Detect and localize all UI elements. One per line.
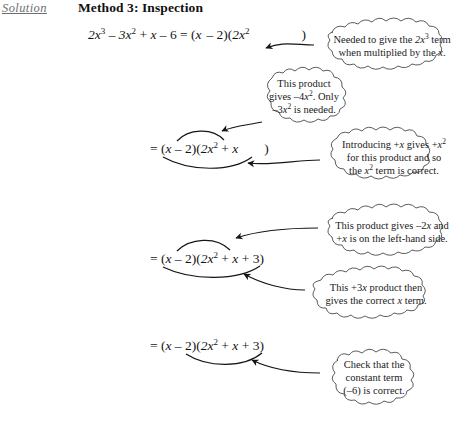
page-title: Method 3: Inspection	[78, 0, 203, 16]
callout-bubble-1-text: Needed to give the 2x3 termwhen multipli…	[328, 33, 456, 59]
callout-bubble-1: Needed to give the 2x3 termwhen multipli…	[316, 24, 468, 64]
equation-line-3: = (x – 2)(2x2 + x + 3)	[150, 251, 264, 267]
callout-bubble-6-text: Check that theconstant term(–6) is corre…	[330, 358, 418, 397]
equation-line-4: = (x – 2)(2x2 + x + 3)	[150, 338, 264, 354]
equation-line-1-text: 2x3 – 3x2 + x – 6 = (x– 2)(2x2)	[88, 27, 306, 42]
overbrace-eq3	[177, 240, 230, 251]
callout-bubble-2: This productgives –4x2. Only–3x2 is need…	[258, 68, 350, 124]
callout-bubble-4: This product gives –2x and+x is on the l…	[316, 210, 468, 250]
callout-bubble-4-text: This product gives –2x and+x is on the l…	[326, 219, 458, 245]
underbrace-eq4	[186, 353, 262, 364]
arrow-to-eq3-overbrace	[236, 228, 318, 238]
callout-bubble-3-text: Introducing +x gives +x2for this product…	[332, 138, 456, 177]
underbrace-eq3	[163, 266, 260, 277]
equation-line-2: = (x – 2)(2x2 + x)	[150, 141, 269, 157]
callout-bubble-3: Introducing +x gives +x2for this product…	[322, 129, 466, 183]
underbrace-eq2	[163, 157, 252, 168]
arrow-to-eq2-underbrace	[248, 160, 320, 164]
equation-line-2-text: = (x – 2)(2x2 + x)	[150, 141, 269, 156]
equation-line-1: 2x3 – 3x2 + x – 6 = (x– 2)(2x2)	[88, 27, 306, 43]
arrow-to-eq3-underbrace	[244, 274, 305, 290]
arrow-to-eq4-underbrace	[252, 360, 320, 373]
equation-line-4-text: = (x – 2)(2x2 + x + 3)	[150, 338, 264, 353]
arrow-to-eq1-blank	[266, 44, 314, 48]
callout-bubble-5: This +3x product thengives the correct x…	[306, 272, 446, 312]
arrow-to-bubble2	[222, 122, 262, 131]
solution-label: Solution	[2, 1, 47, 16]
callout-bubble-5-text: This +3x product thengives the correct x…	[314, 281, 438, 307]
callout-bubble-2-text: This productgives –4x2. Only–3x2 is need…	[266, 77, 342, 116]
equation-line-3-text: = (x – 2)(2x2 + x + 3)	[150, 251, 264, 266]
callout-bubble-6: Check that theconstant term(–6) is corre…	[322, 350, 426, 406]
